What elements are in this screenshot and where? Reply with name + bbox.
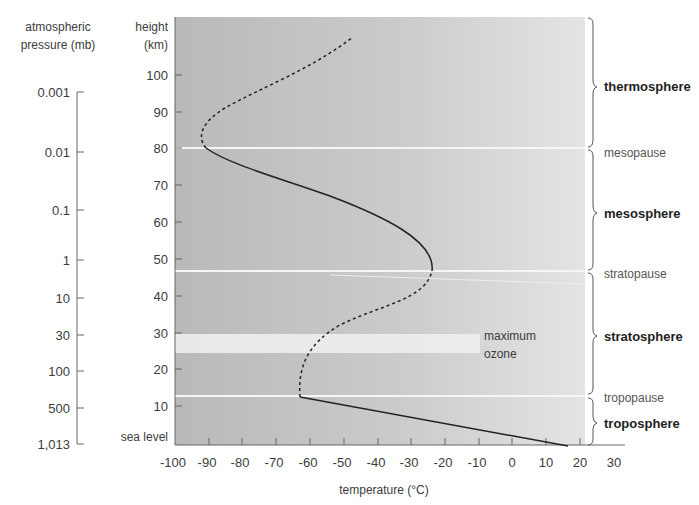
svg-text:0.1: 0.1 (52, 203, 70, 218)
layer-braces (588, 18, 597, 445)
mesosphere-label: mesosphere (604, 206, 681, 221)
thermosphere-label: thermosphere (604, 79, 691, 94)
svg-text:80: 80 (154, 141, 168, 156)
svg-text:20: 20 (154, 362, 168, 377)
svg-text:50: 50 (154, 252, 168, 267)
svg-text:40: 40 (154, 289, 168, 304)
svg-text:-80: -80 (231, 455, 250, 470)
svg-text:20: 20 (573, 455, 587, 470)
temperature-axis-title: temperature (°C) (339, 483, 429, 497)
ozone-band (175, 334, 480, 353)
svg-text:30: 30 (154, 326, 168, 341)
svg-text:0: 0 (508, 455, 515, 470)
svg-text:-50: -50 (333, 455, 352, 470)
mesosphere-brace (588, 150, 597, 270)
svg-text:30: 30 (607, 455, 621, 470)
height-axis-title-2: (km) (144, 38, 168, 52)
temperature-tick-labels: -100 -90 -80 -70 -60 -50 -40 -30 -20 -10… (160, 455, 621, 470)
svg-text:1,013: 1,013 (37, 437, 70, 452)
svg-text:-10: -10 (468, 455, 487, 470)
pressure-ticks (77, 92, 84, 444)
pressure-axis-title-1: atmospheric (25, 20, 90, 34)
svg-text:30: 30 (56, 328, 70, 343)
svg-text:-60: -60 (299, 455, 318, 470)
atmosphere-temperature-chart: 100 90 80 70 60 50 40 30 20 10 sea level… (0, 0, 699, 505)
ozone-label-1: maximum (484, 329, 536, 343)
plot-area (175, 17, 585, 445)
svg-text:500: 500 (48, 401, 70, 416)
mesopause-label: mesopause (604, 146, 666, 160)
svg-text:10: 10 (154, 399, 168, 414)
svg-text:-20: -20 (434, 455, 453, 470)
height-axis-title-1: height (135, 20, 168, 34)
svg-text:1: 1 (63, 253, 70, 268)
svg-text:0.01: 0.01 (45, 145, 70, 160)
troposphere-brace (588, 398, 597, 445)
troposphere-label: troposphere (604, 416, 680, 431)
svg-text:-40: -40 (367, 455, 386, 470)
thermosphere-brace (588, 18, 597, 147)
svg-text:70: 70 (154, 178, 168, 193)
svg-text:-100: -100 (160, 455, 186, 470)
svg-text:sea level: sea level (121, 430, 168, 444)
svg-text:10: 10 (539, 455, 553, 470)
svg-text:100: 100 (48, 364, 70, 379)
tropopause-label: tropopause (604, 391, 664, 405)
svg-text:0.001: 0.001 (37, 85, 70, 100)
svg-text:-70: -70 (265, 455, 284, 470)
height-tick-labels: 100 90 80 70 60 50 40 30 20 10 sea level (121, 68, 168, 444)
svg-text:60: 60 (154, 215, 168, 230)
svg-text:-90: -90 (198, 455, 217, 470)
stratosphere-brace (588, 273, 597, 394)
ozone-label-2: ozone (484, 347, 517, 361)
stratosphere-label: stratosphere (604, 329, 683, 344)
pressure-axis-title-2: pressure (mb) (21, 38, 96, 52)
pressure-tick-labels: 0.001 0.01 0.1 1 10 30 100 500 1,013 (37, 85, 70, 452)
svg-text:-30: -30 (400, 455, 419, 470)
svg-text:100: 100 (146, 68, 168, 83)
svg-text:90: 90 (154, 105, 168, 120)
stratopause-label: stratopause (604, 267, 667, 281)
svg-text:10: 10 (56, 291, 70, 306)
